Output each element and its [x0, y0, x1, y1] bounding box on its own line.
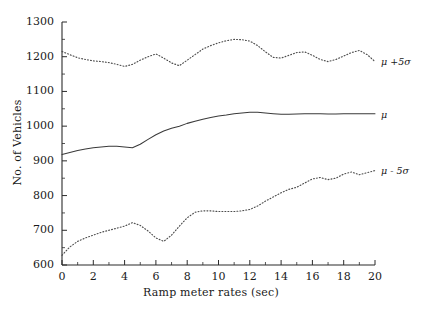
x-tick-label: 12: [237, 270, 263, 283]
y-axis-title: No. of Vehicles: [11, 63, 24, 223]
x-tick-label: 0: [49, 270, 75, 283]
y-tick-label: 900: [20, 154, 54, 167]
x-tick-label: 14: [268, 270, 294, 283]
axis-lines: [62, 22, 375, 265]
y-tick-label: 700: [20, 223, 54, 236]
series-line-mu-minus-5-sigma: [62, 171, 375, 256]
y-tick-label: 800: [20, 189, 54, 202]
y-tick-label: 1200: [20, 50, 54, 63]
series-label-mu-minus-5-sigma: μ - 5σ: [381, 165, 409, 176]
series-label-mu-plus-5-sigma: μ +5σ: [381, 56, 411, 67]
y-tick-label: 1000: [20, 119, 54, 132]
chart-plot-area: [0, 0, 422, 312]
x-tick-label: 18: [331, 270, 357, 283]
x-tick-label: 4: [112, 270, 138, 283]
x-tick-label: 10: [206, 270, 232, 283]
x-tick-label: 20: [362, 270, 388, 283]
y-axis-ticks: [62, 22, 67, 265]
data-series-group: [62, 39, 375, 255]
x-axis-title: Ramp meter rates (sec): [0, 286, 422, 299]
x-axis-ticks: [62, 260, 375, 265]
x-tick-label: 8: [174, 270, 200, 283]
series-line-mu-plus-5-sigma: [62, 39, 375, 66]
chart-figure: 6007008009001000110012001300 02468101214…: [0, 0, 422, 312]
series-label-mu: μ: [381, 109, 387, 120]
y-tick-label: 1300: [20, 15, 54, 28]
series-line-mu: [62, 112, 375, 154]
x-tick-label: 6: [143, 270, 169, 283]
x-tick-label: 2: [80, 270, 106, 283]
x-tick-label: 16: [299, 270, 325, 283]
y-tick-label: 1100: [20, 84, 54, 97]
